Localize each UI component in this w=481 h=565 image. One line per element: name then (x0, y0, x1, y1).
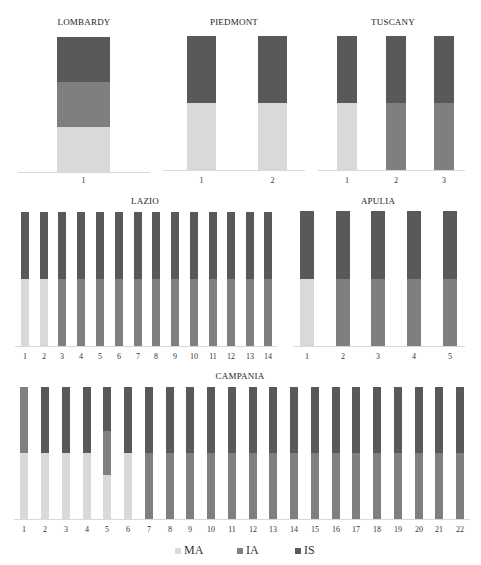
stacked-bar (394, 387, 402, 519)
bar-segment-ia (152, 279, 160, 346)
x-tick-label: 5 (97, 525, 117, 534)
stacked-bar (269, 387, 277, 519)
stacked-bar (264, 212, 272, 346)
bar-segment-is (41, 387, 49, 453)
stacked-bar (124, 387, 132, 519)
x-tick-label: 4 (77, 525, 97, 534)
x-tick-label: 10 (201, 525, 221, 534)
bar-segment-is (124, 387, 132, 453)
bar-segment-ia (290, 453, 298, 519)
stacked-bar (435, 387, 443, 519)
x-tick-label: 2 (263, 176, 283, 185)
panel-title: LAZIO (95, 196, 195, 206)
panel-title: APULIA (328, 196, 428, 206)
bar-segment-is (264, 212, 272, 279)
x-tick-label: 5 (90, 352, 110, 361)
stacked-bar (41, 387, 49, 519)
bar-segment-is (352, 387, 360, 453)
stacked-bar (311, 387, 319, 519)
stacked-bar (62, 387, 70, 519)
x-tick-label: 16 (326, 525, 346, 534)
x-tick-label: 21 (429, 525, 449, 534)
stacked-bar (371, 211, 385, 346)
stacked-bar (456, 387, 464, 519)
chart-legend: MAIAIS (0, 543, 481, 559)
bar-segment-ia (434, 103, 454, 170)
x-tick-label: 2 (35, 525, 55, 534)
bar-segment-ma (258, 103, 287, 170)
x-tick-label: 3 (52, 352, 72, 361)
x-axis-line (14, 519, 470, 520)
stacked-bar (246, 212, 254, 346)
x-tick-label: 18 (367, 525, 387, 534)
legend-swatch-icon (237, 548, 243, 554)
stacked-bar (332, 387, 340, 519)
stacked-bar (352, 387, 360, 519)
x-axis-line (18, 172, 150, 173)
stacked-bar (190, 212, 198, 346)
x-axis-line (163, 170, 305, 171)
bar-segment-ia (386, 103, 406, 170)
stacked-bar (115, 212, 123, 346)
stacked-bar (83, 387, 91, 519)
x-tick-label: 2 (333, 352, 353, 361)
x-tick-label: 15 (305, 525, 325, 534)
bar-segment-is (186, 387, 194, 453)
x-tick-label: 20 (409, 525, 429, 534)
bar-segment-is (435, 387, 443, 453)
x-tick-label: 2 (34, 352, 54, 361)
x-tick-label: 11 (203, 352, 223, 361)
stacked-bar (228, 387, 236, 519)
x-tick-label: 1 (297, 352, 317, 361)
bar-segment-is (209, 212, 217, 279)
x-tick-label: 14 (258, 352, 278, 361)
x-tick-label: 6 (118, 525, 138, 534)
bar-segment-ia (207, 453, 215, 519)
bar-segment-is (336, 211, 350, 279)
bar-segment-is (443, 211, 457, 279)
bar-segment-ma (41, 453, 49, 519)
stacked-bar (186, 387, 194, 519)
x-tick-label: 4 (404, 352, 424, 361)
legend-label: MA (184, 543, 203, 558)
stacked-bar (443, 211, 457, 346)
x-tick-label: 11 (222, 525, 242, 534)
stacked-bar (40, 212, 48, 346)
x-axis-line (318, 170, 465, 171)
bar-segment-is (228, 387, 236, 453)
stacked-bar (96, 212, 104, 346)
bar-segment-ia (103, 431, 111, 475)
x-tick-label: 1 (74, 176, 94, 185)
bar-segment-ia (264, 279, 272, 346)
bar-segment-ia (96, 279, 104, 346)
bar-segment-ia (20, 387, 28, 453)
bar-segment-ma (103, 475, 111, 519)
bar-segment-is (337, 36, 357, 103)
x-tick-label: 19 (388, 525, 408, 534)
x-tick-label: 9 (165, 352, 185, 361)
bar-segment-is (21, 212, 29, 279)
bar-segment-is (134, 212, 142, 279)
x-tick-label: 4 (71, 352, 91, 361)
stacked-bar (145, 387, 153, 519)
x-tick-label: 3 (56, 525, 76, 534)
bar-segment-ia (443, 279, 457, 347)
stacked-bar (407, 211, 421, 346)
x-tick-label: 1 (15, 352, 35, 361)
bar-segment-is (58, 212, 66, 279)
bar-segment-is (394, 387, 402, 453)
bar-segment-ia (394, 453, 402, 519)
bar-segment-is (103, 387, 111, 431)
bar-segment-is (83, 387, 91, 453)
x-tick-label: 13 (263, 525, 283, 534)
x-tick-label: 1 (14, 525, 34, 534)
legend-item-is: IS (295, 543, 315, 558)
stacked-bar (258, 36, 287, 170)
stacked-bar (290, 387, 298, 519)
bar-segment-ma (124, 453, 132, 519)
legend-item-ma: MA (175, 543, 203, 558)
x-tick-label: 8 (160, 525, 180, 534)
bar-segment-is (386, 36, 406, 103)
x-tick-label: 5 (440, 352, 460, 361)
stacked-bar (58, 212, 66, 346)
